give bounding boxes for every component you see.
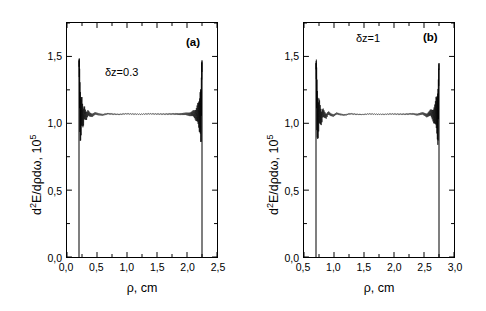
y-axis-title-text-mid: E/dρdω, 10 — [30, 140, 44, 203]
x-tick-label: 2,5 — [417, 262, 432, 273]
delta-z-annotation-a: δz=0.3 — [105, 66, 138, 78]
x-tick-label: 2,0 — [387, 262, 402, 273]
delta-z-annotation-b: δz=1 — [356, 32, 380, 44]
y-axis-title-exponent-2: 5 — [265, 135, 275, 140]
y-axis-title-exponent-1: 2 — [265, 203, 275, 208]
panel-b: 0,5 1,0 1,5 2,0 2,5 3,0 0,0 0,5 1,0 1,5 … — [243, 0, 486, 311]
y-tick-label: 1,0 — [36, 118, 62, 129]
y-tick-label: 1,5 — [36, 50, 62, 61]
y-tick-label: 1,5 — [273, 50, 299, 61]
x-tick-label: 1,0 — [119, 262, 134, 273]
x-tick-label: 1,0 — [326, 262, 341, 273]
x-tick-label: 3,0 — [448, 262, 463, 273]
panel-label-a: (a) — [186, 36, 200, 48]
y-axis-title-text: d — [267, 208, 281, 215]
y-tick-label: 0,0 — [273, 253, 299, 264]
y-axis-title-text: d — [30, 208, 44, 215]
y-tick-label: 1,0 — [273, 118, 299, 129]
plot-area-a — [66, 22, 218, 258]
figure-container: 0,0 0,5 1,0 1,5 2,0 2,5 0,0 0,5 1,0 1,5 … — [0, 0, 486, 311]
y-axis-title-exponent-2: 5 — [28, 135, 38, 140]
plot-area-b — [303, 22, 455, 258]
plot-canvas-a — [67, 23, 217, 257]
y-axis-title: d2E/dρdω, 105 — [30, 135, 44, 215]
panel-a: 0,0 0,5 1,0 1,5 2,0 2,5 0,0 0,5 1,0 1,5 … — [0, 0, 243, 311]
y-axis-title-text-mid: E/dρdω, 10 — [267, 140, 281, 203]
plot-canvas-b — [304, 23, 454, 257]
y-axis-title-exponent-1: 2 — [28, 203, 38, 208]
x-axis-title: ρ, cm — [127, 281, 158, 295]
x-tick-label: 0,5 — [89, 262, 104, 273]
x-axis-title: ρ, cm — [364, 281, 395, 295]
y-axis-title: d2E/dρdω, 105 — [267, 135, 281, 215]
x-tick-label: 1,5 — [356, 262, 371, 273]
x-tick-label: 2,0 — [180, 262, 195, 273]
x-tick-label: 1,5 — [150, 262, 165, 273]
panel-label-b: (b) — [423, 31, 438, 43]
y-tick-label: 0,0 — [36, 253, 62, 264]
x-tick-label: 2,5 — [211, 262, 226, 273]
